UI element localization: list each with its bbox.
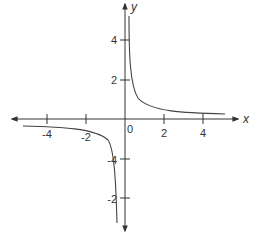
lower-branch-curve xyxy=(23,126,117,223)
upper-branch-curve xyxy=(129,16,225,114)
x-axis-label: x xyxy=(242,112,250,126)
x-tick-label: -2 xyxy=(81,131,91,143)
y-tick-label: -4 xyxy=(107,154,117,166)
x-tick-label: 2 xyxy=(161,127,167,139)
x-tick-label: 4 xyxy=(200,127,206,139)
y-tick-label: 2 xyxy=(111,74,117,86)
hyperbola-plot: -4 -2 2 4 0 4 2 -4 -2 x y xyxy=(0,0,255,233)
y-axis-label: y xyxy=(130,0,138,14)
origin-label: 0 xyxy=(127,123,133,135)
x-tick-label: -4 xyxy=(42,128,52,140)
y-tick-label: 4 xyxy=(111,34,117,46)
